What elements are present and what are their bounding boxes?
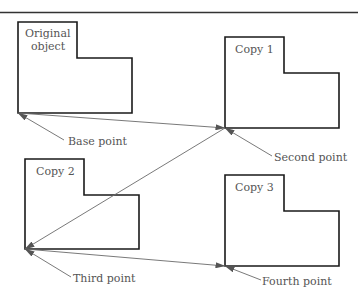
copy-3-label: Copy 3 (235, 181, 274, 194)
leader-second-point (225, 128, 272, 156)
copy-command-diagram: Original object Copy 1 Copy 2 Copy 3 Bas… (0, 0, 358, 308)
third-point-label: Third point (73, 272, 136, 285)
copy-1-object: Copy 1 (225, 37, 339, 128)
base-point-label: Base point (68, 135, 128, 148)
copy-2-label: Copy 2 (36, 165, 75, 178)
original-object-label-line1: Original (25, 27, 71, 40)
second-point-label: Second point (274, 151, 348, 164)
fourth-point-label: Fourth point (262, 275, 332, 288)
original-object: Original object (18, 22, 132, 113)
arrow-base-to-second (18, 113, 225, 128)
copy-1-label: Copy 1 (235, 43, 274, 56)
original-object-label-line2: object (31, 40, 66, 53)
leader-base-point (18, 113, 64, 140)
copy-3-object: Copy 3 (225, 175, 339, 266)
leader-fourth-point (225, 266, 261, 280)
leader-third-point (25, 249, 71, 277)
arrow-third-to-fourth (25, 249, 225, 266)
copy-2-object: Copy 2 (25, 159, 139, 249)
